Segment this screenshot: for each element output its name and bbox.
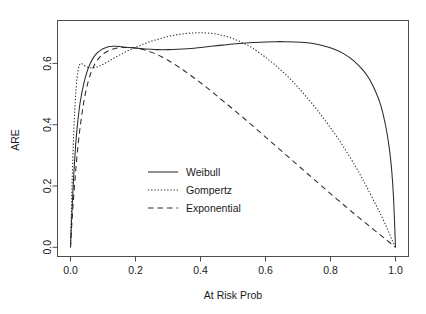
x-axis-ticks: 0.00.20.40.60.81.0	[63, 257, 403, 276]
legend: WeibullGompertzExponential	[148, 166, 241, 214]
plot-frame	[58, 21, 409, 257]
y-tick-label: 0.6	[41, 56, 53, 71]
x-tick-label: 1.0	[388, 264, 403, 276]
x-tick-label: 0.6	[258, 264, 273, 276]
curve-weibull	[71, 42, 396, 248]
y-tick-label: 0.0	[41, 240, 53, 255]
x-tick-label: 0.4	[193, 264, 208, 276]
legend-label-gompertz: Gompertz	[186, 184, 232, 196]
y-axis-title: ARE	[9, 129, 21, 151]
data-curves	[71, 33, 396, 248]
legend-label-weibull: Weibull	[186, 166, 220, 178]
x-tick-label: 0.0	[63, 264, 78, 276]
x-tick-label: 0.2	[128, 264, 143, 276]
legend-label-exponential: Exponential	[186, 202, 241, 214]
curve-gompertz	[71, 33, 396, 248]
curve-exponential	[71, 47, 396, 247]
x-tick-label: 0.8	[323, 264, 338, 276]
x-axis-title: At Risk Prob	[204, 289, 263, 301]
y-axis-ticks: 0.00.20.40.6	[41, 56, 57, 255]
chart-container: 0.00.20.40.60.81.0 0.00.20.40.6 WeibullG…	[0, 0, 426, 314]
are-line-chart: 0.00.20.40.60.81.0 0.00.20.40.6 WeibullG…	[0, 0, 426, 314]
y-tick-label: 0.4	[41, 117, 53, 132]
y-tick-label: 0.2	[41, 179, 53, 194]
